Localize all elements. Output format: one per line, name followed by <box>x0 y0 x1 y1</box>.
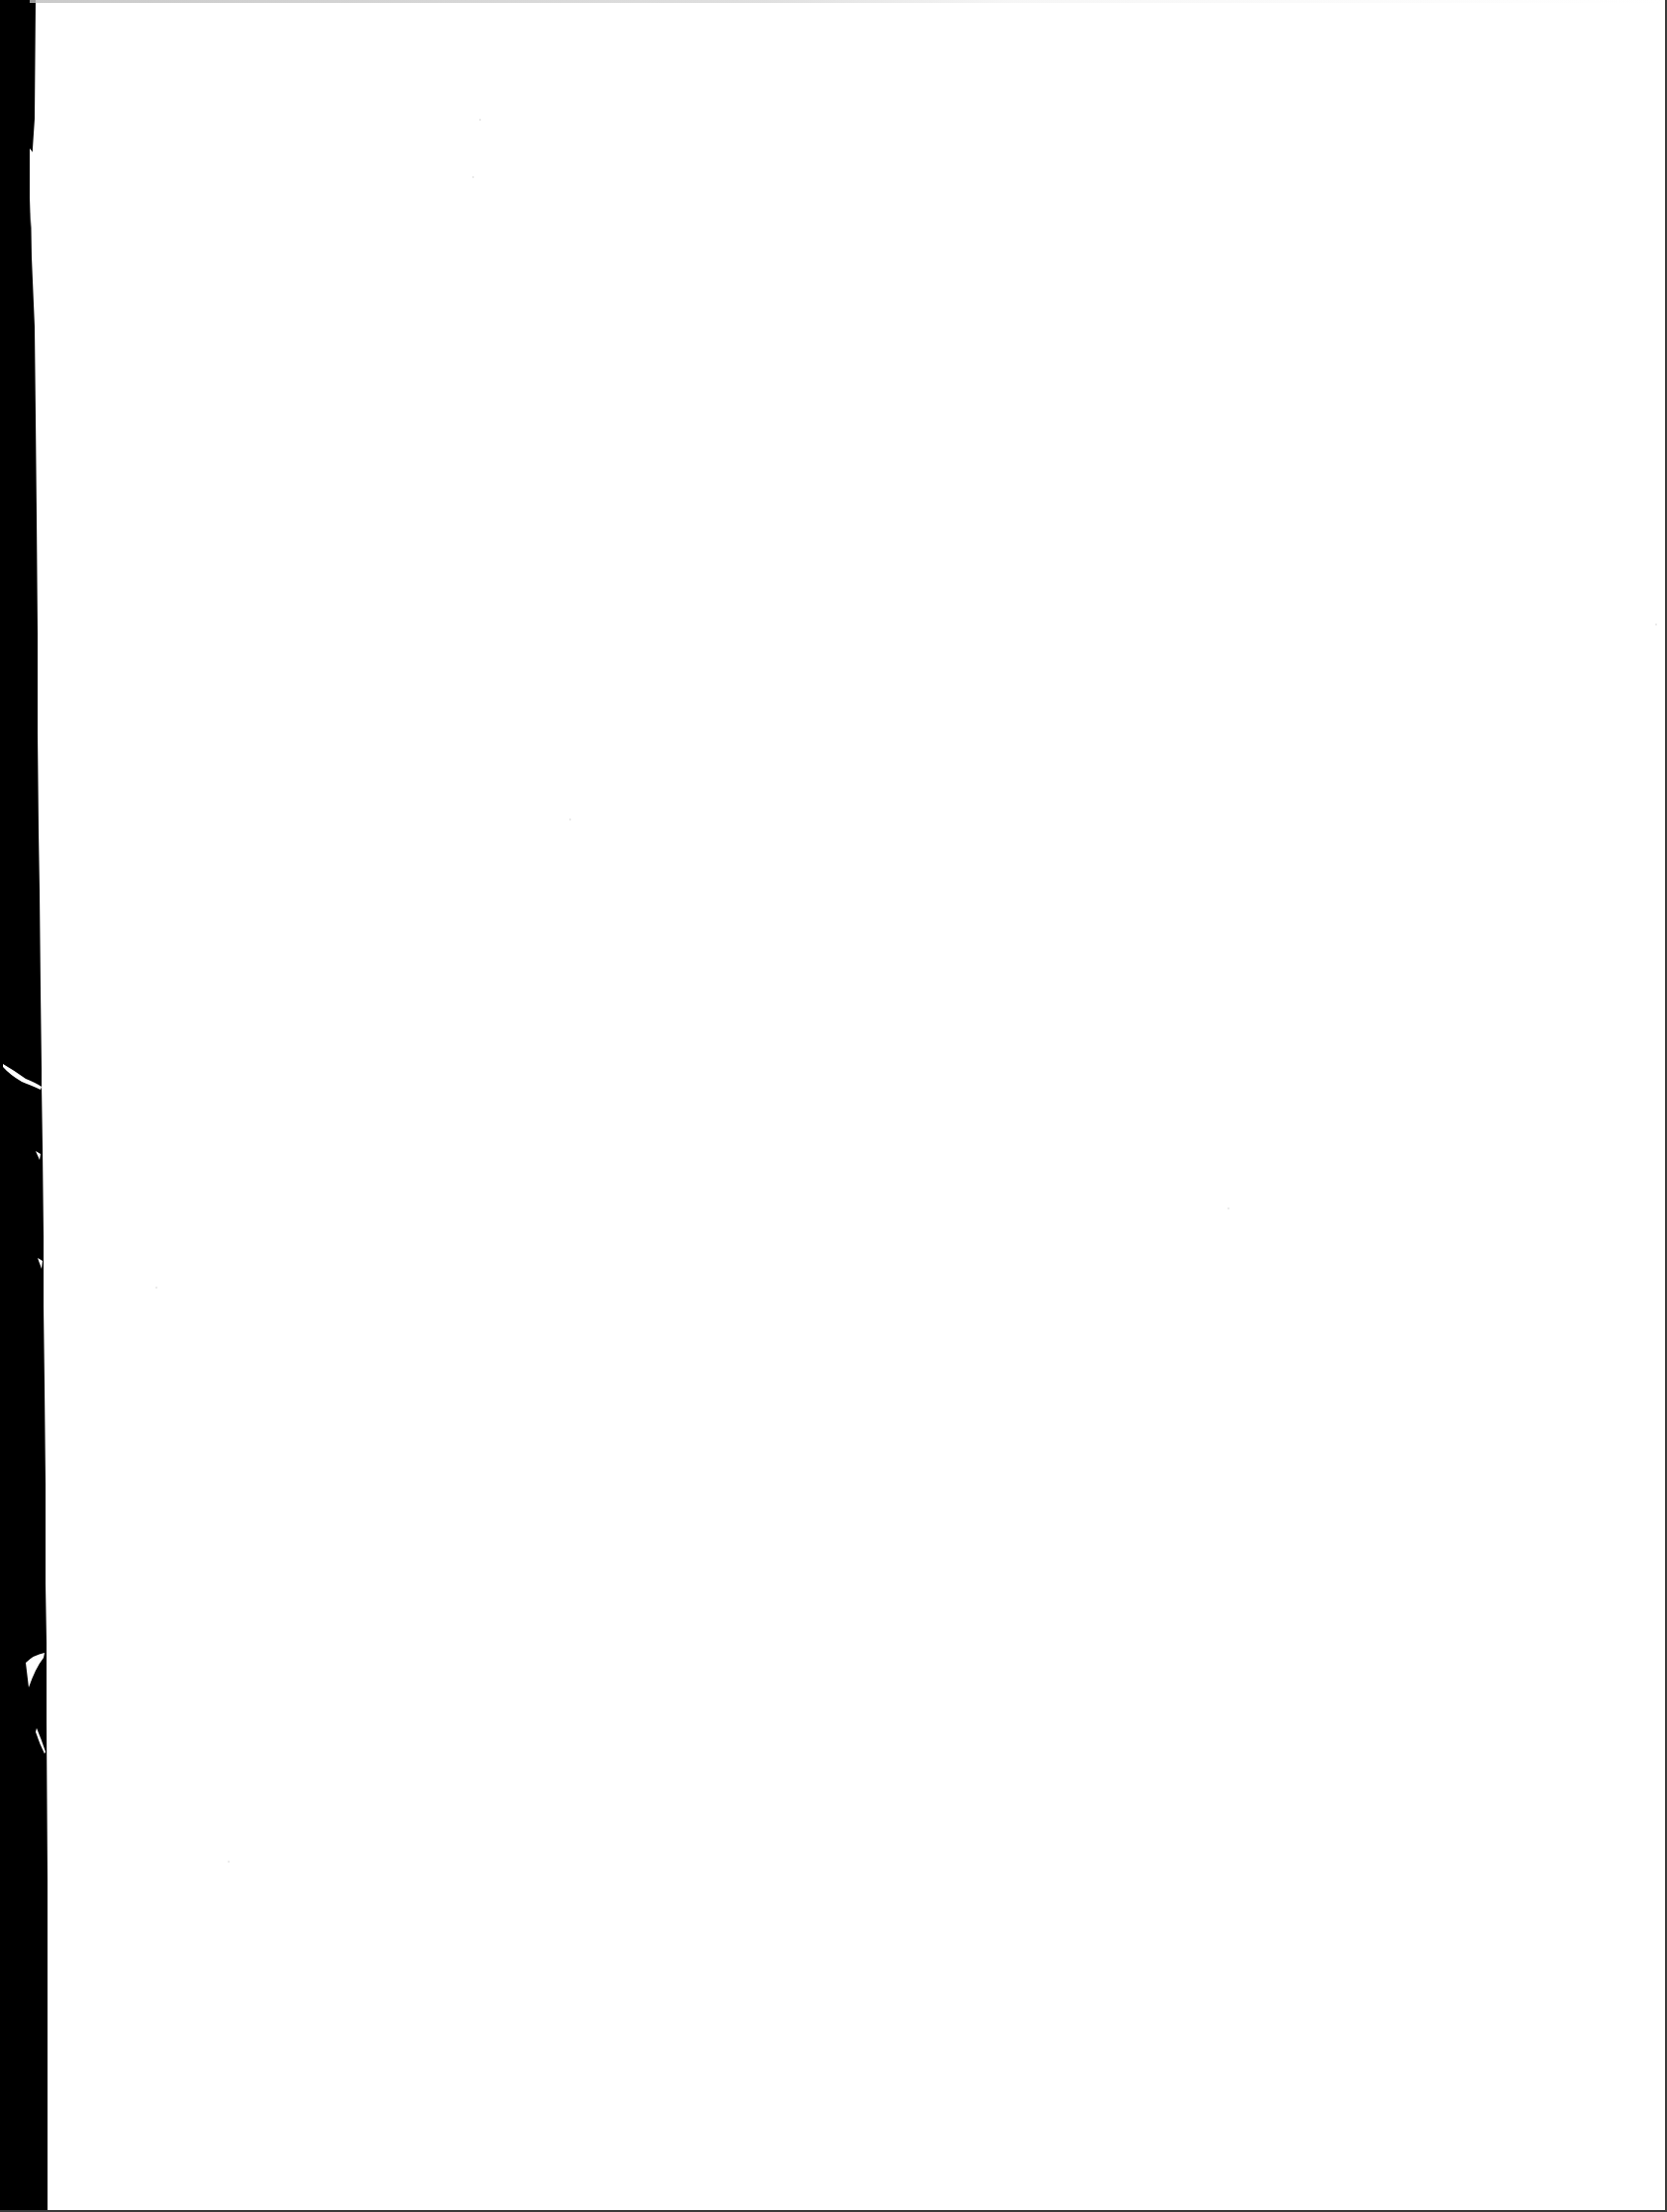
scan-speck <box>1227 1207 1229 1209</box>
scan-speck <box>479 119 481 121</box>
scan-speck <box>569 818 571 820</box>
scan-speck <box>228 1861 230 1863</box>
scan-top-edge-line <box>30 0 1667 3</box>
blank-scanned-page <box>0 0 1667 2212</box>
scanner-edge-shadow <box>0 0 48 2212</box>
scan-speck <box>155 1287 157 1289</box>
scan-speck <box>1655 624 1657 625</box>
scan-speck <box>472 176 474 178</box>
